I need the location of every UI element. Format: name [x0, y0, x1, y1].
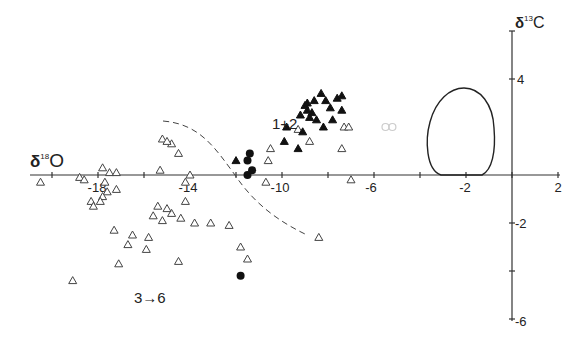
open-triangle-marker [191, 219, 199, 226]
faint-circle-marker [382, 124, 389, 131]
filled-triangle-marker [310, 97, 318, 104]
open-triangle-marker [225, 221, 233, 228]
annotation-3-6: 3→6 [134, 289, 166, 306]
open-triangle-marker [315, 233, 323, 240]
annotation-1-2: 1+2 [272, 115, 297, 132]
x-tick-label: -6 [365, 180, 377, 195]
filled-triangle-marker [322, 97, 330, 104]
open-triangle-marker [142, 245, 150, 252]
open-triangle-marker [112, 185, 120, 192]
faint-circle-marker [389, 124, 396, 131]
y-axis-delta: δ [515, 14, 524, 31]
x-axis-element: O [49, 150, 64, 171]
open-triangle-marker [129, 231, 137, 238]
filled-circle-marker [237, 272, 245, 280]
open-triangle-marker [177, 214, 185, 221]
open-triangle-marker [306, 137, 314, 144]
open-triangle-marker [69, 277, 77, 284]
x-tick-label: -10 [271, 180, 290, 195]
filled-triangle-marker [329, 116, 337, 123]
open-triangle-marker [110, 226, 118, 233]
open-triangle-marker [244, 255, 252, 262]
filled-triangle-marker [319, 123, 327, 130]
filled-triangle-marker [280, 137, 288, 144]
open-triangle-marker [37, 178, 45, 185]
open-triangle-marker [154, 202, 162, 209]
open-triangle-marker [338, 145, 346, 152]
y-axis-element: C [533, 14, 545, 31]
open-triangle-marker [158, 217, 166, 224]
open-triangle-marker [112, 169, 120, 176]
open-triangle-marker [175, 257, 183, 264]
dashed-boundary [163, 121, 307, 235]
filled-triangle-marker [313, 116, 321, 123]
y-tick-label: 4 [517, 72, 524, 87]
open-triangle-marker [347, 176, 355, 183]
open-triangle-marker [163, 205, 171, 212]
open-triangle-marker [99, 164, 107, 171]
filled-triangle-marker [338, 106, 346, 113]
filled-circle-marker [244, 157, 252, 165]
open-triangle-marker [115, 260, 123, 267]
open-triangle-marker [106, 169, 114, 176]
x-tick-label: 2 [554, 180, 561, 195]
open-triangle-marker [181, 197, 189, 204]
y-tick-label: -2 [515, 216, 527, 231]
filled-triangle-marker [326, 104, 334, 111]
scatter-chart: -18 -14 -10 -6 -2 2 4 -2 -6 δ18O δ13C 1+… [0, 0, 585, 341]
filled-triangle-marker [338, 92, 346, 99]
open-triangle-marker [124, 241, 132, 248]
open-triangle-marker [145, 233, 153, 240]
egg-envelope [427, 88, 494, 175]
open-triangle-marker [237, 243, 245, 250]
x-axis-title: δ18O [30, 150, 64, 171]
open-triangle-marker [149, 212, 157, 219]
open-triangle-marker [156, 166, 164, 173]
filled-triangle-marker [296, 111, 304, 118]
x-tick-label: -2 [459, 180, 471, 195]
filled-circle-marker [244, 171, 252, 179]
filled-triangle-marker [294, 145, 302, 152]
x-axis-delta: δ [30, 152, 40, 171]
open-triangle-marker [207, 219, 215, 226]
filled-circle-marker [246, 149, 254, 157]
open-triangle-marker [262, 178, 270, 185]
open-triangle-marker [267, 145, 275, 152]
open-triangle-marker [175, 149, 183, 156]
filled-triangle-marker [232, 157, 240, 164]
y-tick-label: -6 [515, 314, 527, 329]
filled-triangle-marker [317, 89, 325, 96]
open-triangle-marker [264, 157, 272, 164]
y-axis-title: δ13C [515, 14, 545, 31]
